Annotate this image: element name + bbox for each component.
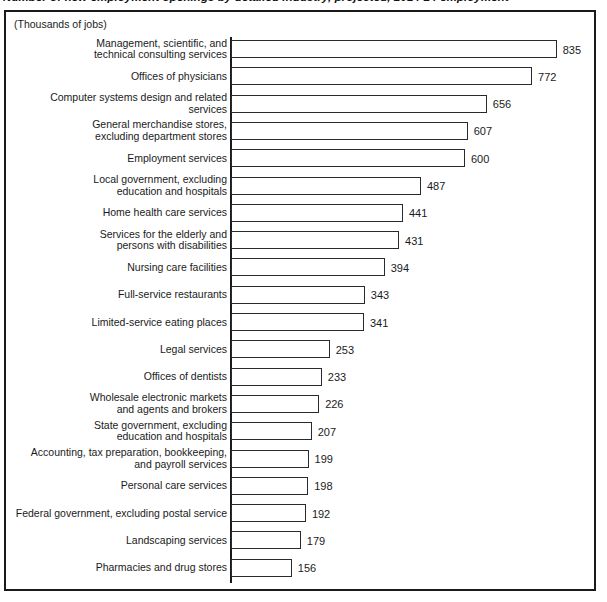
bar xyxy=(231,504,306,522)
bar xyxy=(231,231,399,249)
bar xyxy=(231,422,312,440)
bar-value-label: 600 xyxy=(471,153,489,165)
bar-row: Limited-service eating places341 xyxy=(6,309,593,336)
bar xyxy=(231,258,385,276)
bar-row: General merchandise stores, excluding de… xyxy=(6,118,593,145)
bar-category-label: Accounting, tax preparation, bookkeeping… xyxy=(9,447,227,470)
bar-value-label: 441 xyxy=(409,207,427,219)
bar-value-label: 233 xyxy=(328,371,346,383)
bar xyxy=(231,313,364,331)
bar-category-label: Limited-service eating places xyxy=(9,317,227,329)
bar-row: Wholesale electronic markets and agents … xyxy=(6,391,593,418)
bar xyxy=(231,477,308,495)
bar-category-label: Full-service restaurants xyxy=(9,289,227,301)
bar-row: Federal government, excluding postal ser… xyxy=(6,500,593,527)
bar-row: Offices of dentists233 xyxy=(6,364,593,391)
bar-value-label: 156 xyxy=(298,562,316,574)
plot-area: Management, scientific, and technical co… xyxy=(6,36,593,589)
bar-value-label: 607 xyxy=(474,125,492,137)
chart-subtitle: (Thousands of jobs) xyxy=(14,18,107,30)
bar-row: Services for the elderly and persons wit… xyxy=(6,227,593,254)
bar-category-label: Federal government, excluding postal ser… xyxy=(9,508,227,520)
bar-row: Full-service restaurants343 xyxy=(6,282,593,309)
bar-category-label: Pharmacies and drug stores xyxy=(9,562,227,574)
bar-row: Landscaping services179 xyxy=(6,527,593,554)
bar xyxy=(231,286,365,304)
bar-value-label: 192 xyxy=(312,508,330,520)
bar-category-label: Home health care services xyxy=(9,208,227,220)
bar xyxy=(231,177,421,195)
bar-value-label: 253 xyxy=(336,344,354,356)
bar-row: Local government, excluding education an… xyxy=(6,173,593,200)
bar xyxy=(231,95,487,113)
bar-category-label: Local government, excluding education an… xyxy=(9,174,227,197)
figure-title-strip: Number of new employment openings by det… xyxy=(0,0,607,9)
bar-value-label: 207 xyxy=(318,426,336,438)
bar-row: Nursing care facilities394 xyxy=(6,254,593,281)
bar-value-label: 431 xyxy=(405,235,423,247)
bar-category-label: Employment services xyxy=(9,153,227,165)
bar-category-label: Personal care services xyxy=(9,481,227,493)
bar-row: Legal services253 xyxy=(6,336,593,363)
bar-category-label: General merchandise stores, excluding de… xyxy=(9,120,227,143)
bar-row: Personal care services198 xyxy=(6,473,593,500)
bar-category-label: State government, excluding education an… xyxy=(9,420,227,443)
bar-row: Home health care services441 xyxy=(6,200,593,227)
bar-value-label: 394 xyxy=(391,262,409,274)
bar-category-label: Nursing care facilities xyxy=(9,262,227,274)
bar xyxy=(231,149,465,167)
bar xyxy=(231,531,301,549)
bar-category-label: Offices of physicians xyxy=(9,71,227,83)
bar xyxy=(231,67,532,85)
bar-category-label: Wholesale electronic markets and agents … xyxy=(9,393,227,416)
bar xyxy=(231,450,309,468)
bar-category-label: Management, scientific, and technical co… xyxy=(9,38,227,61)
bar xyxy=(231,368,322,386)
bar-row: Computer systems design and related serv… xyxy=(6,91,593,118)
bar-category-label: Legal services xyxy=(9,344,227,356)
bar-value-label: 343 xyxy=(371,289,389,301)
bar-value-label: 487 xyxy=(427,180,445,192)
chart-frame: (Thousands of jobs) Management, scientif… xyxy=(4,10,596,591)
bar-row: Accounting, tax preparation, bookkeeping… xyxy=(6,446,593,473)
bar-category-label: Computer systems design and related serv… xyxy=(9,93,227,116)
bar-value-label: 226 xyxy=(325,398,343,410)
bar-value-label: 341 xyxy=(370,317,388,329)
bar xyxy=(231,204,403,222)
bar xyxy=(231,340,330,358)
bar-value-label: 198 xyxy=(314,480,332,492)
bar xyxy=(231,559,292,577)
bar-value-label: 835 xyxy=(563,44,581,56)
bar-row: Management, scientific, and technical co… xyxy=(6,36,593,63)
bar-row: Employment services600 xyxy=(6,145,593,172)
bar-value-label: 772 xyxy=(538,71,556,83)
bar-value-label: 199 xyxy=(315,453,333,465)
bar xyxy=(231,40,557,58)
bar xyxy=(231,395,319,413)
bar-value-label: 179 xyxy=(307,535,325,547)
bar-category-label: Landscaping services xyxy=(9,535,227,547)
bar-row: State government, excluding education an… xyxy=(6,418,593,445)
bar-row: Offices of physicians772 xyxy=(6,63,593,90)
bar-value-label: 656 xyxy=(493,98,511,110)
bar-row: Pharmacies and drug stores156 xyxy=(6,555,593,582)
bar xyxy=(231,122,468,140)
bar-category-label: Services for the elderly and persons wit… xyxy=(9,229,227,252)
figure-title: Number of new employment openings by det… xyxy=(3,0,509,3)
bar-category-label: Offices of dentists xyxy=(9,371,227,383)
